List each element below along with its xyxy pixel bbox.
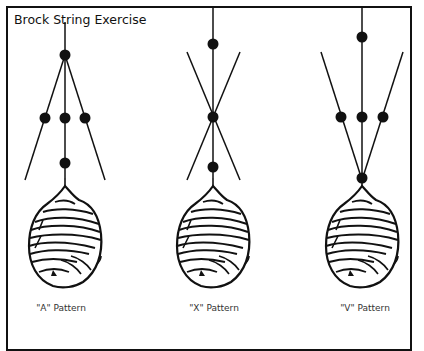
v-pattern-label: "V" Pattern [340, 303, 390, 313]
v-pattern-diagram [321, 6, 403, 287]
x-pattern-label: "X" Pattern [189, 303, 239, 313]
a-pattern-diagram [25, 22, 105, 287]
a-pattern-label: "A" Pattern [36, 303, 86, 313]
x-pattern-diagram [177, 6, 249, 287]
